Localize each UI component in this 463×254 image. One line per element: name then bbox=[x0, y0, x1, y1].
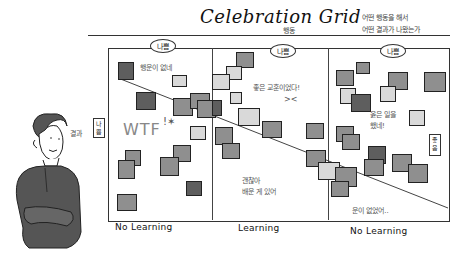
sticky-note bbox=[380, 86, 396, 102]
sticky-note bbox=[351, 94, 371, 112]
grid-description-line-1: 어떤 행동을 해서 bbox=[362, 12, 420, 24]
happy-face-icon: >< bbox=[284, 95, 297, 104]
annotation-learned-line-1: 괜찮아 bbox=[242, 176, 276, 187]
sticky-note bbox=[118, 62, 134, 80]
sticky-note bbox=[190, 126, 206, 140]
sticky-note bbox=[172, 75, 187, 87]
grid-title: Celebration Grid bbox=[200, 6, 361, 27]
sticky-note bbox=[212, 100, 222, 116]
annotation-learned: 괜찮아 배운 게 있어 bbox=[242, 176, 276, 198]
column-badge-3: 나쁨 bbox=[380, 44, 406, 58]
sticky-note bbox=[409, 110, 425, 126]
sticky-note bbox=[238, 108, 260, 126]
sticky-note bbox=[136, 92, 156, 110]
left-result-tag: 나쁨 bbox=[93, 118, 105, 138]
sticky-note bbox=[212, 74, 230, 90]
column-badge-1: 나쁨 bbox=[150, 39, 176, 53]
sticky-note bbox=[331, 181, 349, 197]
sticky-note bbox=[336, 70, 354, 86]
annotation-good-lesson: 좋은 교훈이었다! bbox=[253, 82, 300, 92]
annotation-no-luck: 행운이 없네 bbox=[140, 62, 172, 72]
behavior-axis-caption: 행동 bbox=[283, 25, 295, 35]
sticky-note bbox=[408, 164, 428, 183]
sticky-note bbox=[186, 181, 202, 196]
annotation-did-right-line-1: 옳은 일을 bbox=[370, 110, 396, 121]
column-label-learning: Learning bbox=[238, 223, 279, 233]
annotation-did-right-line-2: 했네! bbox=[370, 121, 396, 132]
sticky-note bbox=[222, 143, 240, 159]
title-underline bbox=[88, 35, 450, 36]
column-label-no-learning-right: No Learning bbox=[350, 226, 407, 236]
sticky-note bbox=[306, 123, 324, 139]
annotation-did-right: 옳은 일을 했네! bbox=[370, 110, 396, 132]
annotation-unlucky: 운이 없었어.. bbox=[352, 205, 389, 215]
sticky-note bbox=[342, 134, 360, 150]
sticky-note bbox=[230, 92, 242, 104]
column-badge-2: 나쁨 bbox=[270, 44, 296, 58]
annotation-learned-line-2: 배운 게 있어 bbox=[242, 187, 276, 198]
sticky-note bbox=[118, 160, 135, 179]
sticky-note bbox=[424, 72, 446, 92]
person-illustration bbox=[5, 108, 85, 254]
sticky-note bbox=[262, 121, 282, 138]
annotation-wtf: WTF bbox=[123, 120, 161, 139]
sticky-note bbox=[160, 157, 179, 176]
exclamation-burst-icon: !✶ bbox=[163, 116, 175, 127]
sticky-note bbox=[356, 62, 370, 74]
sticky-note bbox=[117, 194, 137, 211]
grid-description: 어떤 행동을 해서 어떤 결과가 나왔는가 bbox=[362, 12, 420, 36]
column-label-no-learning-left: No Learning bbox=[115, 222, 172, 232]
right-result-tag: 좋음 bbox=[429, 134, 441, 156]
sticky-note bbox=[364, 159, 384, 176]
